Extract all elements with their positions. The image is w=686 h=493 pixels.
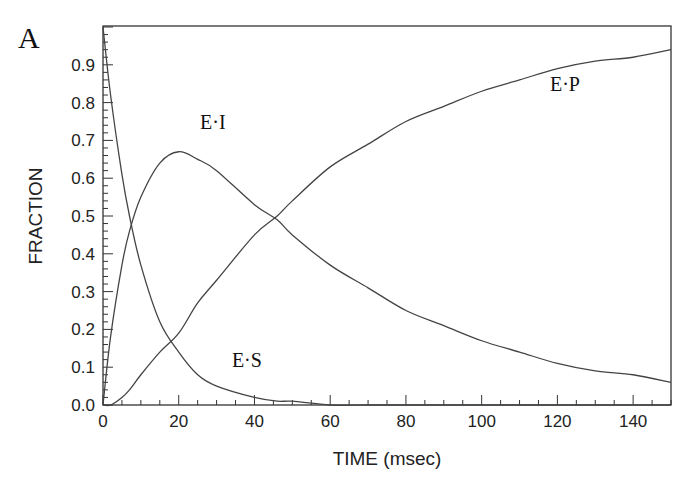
ei-curve bbox=[103, 152, 671, 405]
plot-axes bbox=[103, 26, 671, 405]
curve-label: E·S bbox=[232, 349, 262, 371]
x-tick-label: 80 bbox=[396, 412, 415, 431]
y-tick-label: 0.6 bbox=[71, 169, 95, 188]
x-axis-title: TIME (msec) bbox=[333, 448, 442, 469]
curve-label: E·P bbox=[550, 73, 580, 95]
curves bbox=[103, 27, 671, 406]
y-tick-label: 0.8 bbox=[71, 94, 95, 113]
x-tick-label: 120 bbox=[543, 412, 571, 431]
y-tick-label: 0.4 bbox=[71, 245, 95, 264]
y-tick-label: 0.7 bbox=[71, 131, 95, 150]
x-tick-label: 140 bbox=[619, 412, 647, 431]
panel-letter: A bbox=[18, 21, 40, 54]
x-tick-label: 60 bbox=[321, 412, 340, 431]
axis-ticks: 0204060801001201400.00.10.20.30.40.50.60… bbox=[71, 27, 671, 431]
ep-curve bbox=[103, 50, 671, 406]
x-tick-label: 0 bbox=[98, 412, 107, 431]
y-tick-label: 0.0 bbox=[71, 396, 95, 415]
chart: A 0204060801001201400.00.10.20.30.40.50.… bbox=[0, 0, 686, 493]
x-tick-label: 20 bbox=[169, 412, 188, 431]
es-curve bbox=[103, 27, 671, 405]
y-tick-label: 0.2 bbox=[71, 320, 95, 339]
x-tick-label: 40 bbox=[245, 412, 264, 431]
y-tick-label: 0.3 bbox=[71, 283, 95, 302]
curve-label: E·I bbox=[200, 111, 226, 133]
x-tick-label: 100 bbox=[467, 412, 495, 431]
y-tick-label: 0.9 bbox=[71, 56, 95, 75]
y-tick-label: 0.5 bbox=[71, 207, 95, 226]
y-axis-title: FRACTION bbox=[25, 167, 46, 264]
curve-labels: E·IE·PE·S bbox=[200, 73, 580, 371]
y-tick-label: 0.1 bbox=[71, 358, 95, 377]
